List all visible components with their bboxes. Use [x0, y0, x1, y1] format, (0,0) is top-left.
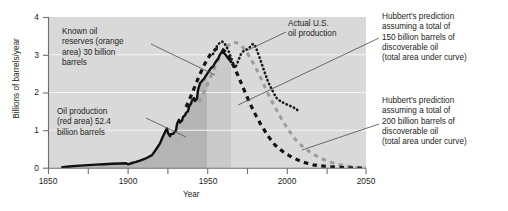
y-tick-label-2: 2 [25, 87, 39, 97]
y-tick-label-4: 4 [25, 12, 39, 22]
annotation-known-reserves: Known oil reserves (orange area) 30 bill… [62, 27, 154, 68]
y-axis-title: Billions of barrels/year [12, 19, 21, 139]
figure-container: 4 3 2 1 0 1850 1900 1950 2000 2050 Billi… [0, 0, 508, 211]
y-tick-label-3: 3 [25, 50, 39, 60]
x-tick-marks [49, 168, 367, 174]
annotation-actual-production: Actual U.S. oil production [288, 19, 362, 40]
y-tick-marks [43, 18, 49, 169]
x-axis-title: Year [183, 190, 200, 199]
x-tick-label-1900: 1900 [108, 176, 148, 186]
annotation-oil-production: Oil production (red area) 52.4 billion b… [57, 107, 149, 138]
y-tick-label-1: 1 [25, 125, 39, 135]
x-tick-label-2000: 2000 [267, 176, 307, 186]
annotation-hubbert-200: Hubbert's prediction assuming a total of… [382, 96, 508, 147]
y-tick-label-0: 0 [25, 163, 39, 173]
x-tick-label-1950: 1950 [188, 176, 228, 186]
annotation-hubbert-150: Hubbert's prediction assuming a total of… [382, 12, 508, 63]
x-tick-label-1850: 1850 [28, 176, 68, 186]
x-tick-label-2050: 2050 [346, 176, 386, 186]
